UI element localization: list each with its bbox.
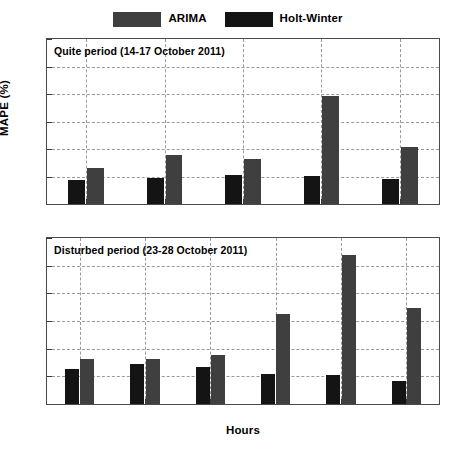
legend-item-holt-winter: Holt-Winter (225, 12, 343, 27)
bar-arima-72 (244, 159, 261, 204)
y-tick-mark (47, 39, 52, 40)
bar-holt-winter-72 (225, 175, 242, 204)
bar-holt-winter-122 (326, 375, 340, 404)
bar-arima-122 (401, 147, 418, 204)
legend-swatch-arima (113, 12, 161, 27)
legend-label-arima: ARIMA (168, 13, 206, 25)
bar-arima-48 (166, 155, 183, 204)
bar-arima-96 (322, 96, 339, 204)
bar-holt-winter-24 (68, 180, 85, 204)
y-tick-mark (47, 266, 52, 267)
y-tick-mark (47, 149, 52, 150)
bar-holt-winter-96 (261, 374, 275, 404)
chart-panel-quite-period: 05101520253024487296122 Quite period (14… (46, 38, 440, 205)
y-tick-mark (47, 122, 52, 123)
bar-arima-144 (407, 308, 421, 404)
bar-arima-72 (211, 355, 225, 404)
gridline-horizontal (47, 376, 439, 377)
legend-item-arima: ARIMA (113, 12, 206, 27)
chart-title-quite-period: Quite period (14-17 October 2011) (54, 45, 225, 57)
bar-arima-122 (342, 255, 356, 404)
y-tick-mark (47, 94, 52, 95)
y-tick-mark (47, 177, 52, 178)
bar-holt-winter-48 (147, 178, 164, 204)
bar-holt-winter-24 (65, 369, 79, 404)
plot-area-quite-period: 05101520253024487296122 (47, 39, 439, 204)
legend-label-holt-winter: Holt-Winter (280, 13, 343, 25)
gridline-horizontal (47, 266, 439, 267)
gridline-horizontal (47, 349, 439, 350)
chart-legend: ARIMA Holt-Winter (0, 8, 456, 30)
legend-swatch-holt-winter (225, 12, 273, 27)
bar-arima-48 (146, 359, 160, 404)
bar-arima-24 (87, 168, 104, 204)
x-axis-label: Hours (46, 424, 440, 436)
y-tick-mark (47, 349, 52, 350)
gridline-horizontal (47, 293, 439, 294)
bar-holt-winter-72 (196, 367, 210, 404)
y-tick-mark (47, 376, 52, 377)
y-axis-label: MAPE (%) (0, 48, 10, 168)
bar-holt-winter-48 (130, 364, 144, 404)
chart-title-disturbed-period: Disturbed period (23-28 October 2011) (54, 244, 247, 256)
plot-area-disturbed-period: 05101520253024487296122144 (47, 238, 439, 404)
y-tick-mark (47, 238, 52, 239)
bar-holt-winter-96 (304, 176, 321, 204)
y-tick-mark (47, 321, 52, 322)
gridline-horizontal (47, 321, 439, 322)
bar-arima-96 (276, 314, 290, 404)
chart-panel-disturbed-period: 05101520253024487296122144 Disturbed per… (46, 237, 440, 405)
bar-arima-24 (80, 359, 94, 404)
bar-holt-winter-144 (392, 381, 406, 404)
bar-holt-winter-122 (382, 179, 399, 204)
y-tick-mark (47, 293, 52, 294)
figure: ARIMA Holt-Winter MAPE (%) 0510152025302… (0, 0, 456, 454)
y-tick-mark (47, 67, 52, 68)
